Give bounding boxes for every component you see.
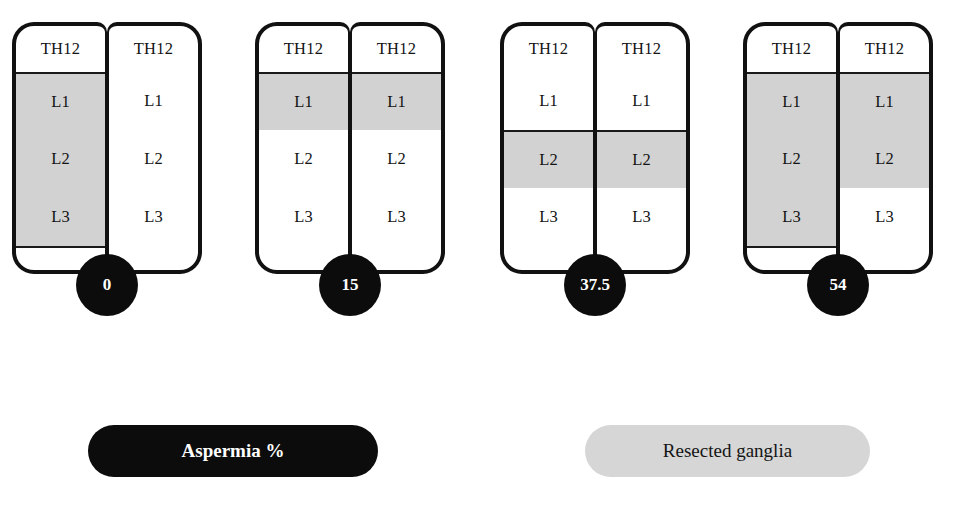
aspermia-value-bubble: 15 — [319, 254, 381, 316]
spine-unit: TH12L1L2L3TH12L1L2L337.5 — [500, 22, 690, 332]
level-stack: TH12L1L2L3 — [259, 26, 348, 270]
level-label: L2 — [294, 149, 313, 169]
spine-column-left: TH12L1L2L3 — [743, 22, 838, 274]
level-cell-l2: L2 — [597, 130, 686, 188]
level-label: L2 — [387, 149, 406, 169]
level-label: L1 — [51, 92, 70, 112]
level-label: L2 — [875, 149, 894, 169]
level-stack: TH12L1L2L3 — [747, 26, 836, 270]
level-stack: TH12L1L2L3 — [109, 26, 198, 270]
level-cell-l2: L2 — [840, 130, 929, 188]
level-stack: TH12L1L2L3 — [840, 26, 929, 270]
spine-column-left: TH12L1L2L3 — [255, 22, 350, 274]
level-cell-l1: L1 — [259, 72, 348, 130]
level-cell-th12: TH12 — [259, 26, 348, 72]
level-cell-l3: L3 — [747, 188, 836, 246]
level-label: L3 — [144, 207, 163, 227]
level-cell-l2: L2 — [504, 130, 593, 188]
spine-column-right: TH12L1L2L3 — [107, 22, 202, 274]
level-cell-l2: L2 — [259, 130, 348, 188]
level-stack: TH12L1L2L3 — [16, 26, 105, 270]
level-cell-l1: L1 — [840, 72, 929, 130]
spine-column-right: TH12L1L2L3 — [350, 22, 445, 274]
level-cell-l2: L2 — [352, 130, 441, 188]
aspermia-value-bubble: 0 — [76, 254, 138, 316]
level-label: TH12 — [377, 39, 416, 59]
level-cell-l2: L2 — [747, 130, 836, 188]
level-cell-l2: L2 — [109, 130, 198, 188]
spine-columns: TH12L1L2L3TH12L1L2L3 — [500, 22, 690, 274]
spine-unit: TH12L1L2L3TH12L1L2L30 — [12, 22, 202, 332]
spinal-ganglia-figure: Aspermia % Resected ganglia TH12L1L2L3TH… — [0, 0, 971, 515]
level-cell-l1: L1 — [352, 72, 441, 130]
aspermia-value-bubble: 54 — [807, 254, 869, 316]
level-cell-l2: L2 — [16, 130, 105, 188]
level-cell-l1: L1 — [504, 72, 593, 130]
level-cell-l1: L1 — [16, 72, 105, 130]
level-label: L2 — [539, 150, 558, 170]
level-cell-th12: TH12 — [352, 26, 441, 72]
level-cell-l1: L1 — [597, 72, 686, 130]
level-label: TH12 — [772, 39, 811, 59]
level-label: L1 — [875, 92, 894, 112]
legend-resected-ganglia: Resected ganglia — [585, 425, 870, 477]
spine-column-left: TH12L1L2L3 — [12, 22, 107, 274]
level-label: L1 — [144, 91, 163, 111]
level-stack: TH12L1L2L3 — [504, 26, 593, 270]
level-label: TH12 — [622, 39, 661, 59]
level-label: L3 — [51, 207, 70, 227]
level-label: L2 — [632, 150, 651, 170]
legend-resected-ganglia-label: Resected ganglia — [663, 440, 792, 462]
aspermia-value-bubble: 37.5 — [564, 254, 626, 316]
level-label: L1 — [539, 91, 558, 111]
level-cell-l3: L3 — [597, 188, 686, 246]
spine-column-left: TH12L1L2L3 — [500, 22, 595, 274]
level-label: L2 — [782, 149, 801, 169]
legend-aspermia: Aspermia % — [88, 425, 378, 477]
level-cell-th12: TH12 — [597, 26, 686, 72]
level-cell-th12: TH12 — [840, 26, 929, 72]
legend-aspermia-label: Aspermia % — [182, 440, 285, 462]
level-cell-th12: TH12 — [109, 26, 198, 72]
level-stack: TH12L1L2L3 — [597, 26, 686, 270]
level-label: TH12 — [865, 39, 904, 59]
level-label: TH12 — [134, 39, 173, 59]
level-label: L3 — [782, 207, 801, 227]
spine-unit: TH12L1L2L3TH12L1L2L315 — [255, 22, 445, 332]
level-label: L1 — [782, 92, 801, 112]
level-label: TH12 — [41, 39, 80, 59]
level-cell-l3: L3 — [504, 188, 593, 246]
spine-columns: TH12L1L2L3TH12L1L2L3 — [255, 22, 445, 274]
spine-column-right: TH12L1L2L3 — [838, 22, 933, 274]
level-label: L3 — [875, 207, 894, 227]
level-label: L3 — [294, 207, 313, 227]
level-cell-l3: L3 — [840, 188, 929, 246]
level-label: L1 — [294, 92, 313, 112]
level-cell-th12: TH12 — [16, 26, 105, 72]
spine-columns: TH12L1L2L3TH12L1L2L3 — [12, 22, 202, 274]
spine-column-right: TH12L1L2L3 — [595, 22, 690, 274]
level-label: L3 — [632, 207, 651, 227]
level-label: L2 — [51, 149, 70, 169]
level-label: L3 — [387, 207, 406, 227]
level-label: L3 — [539, 207, 558, 227]
spine-columns: TH12L1L2L3TH12L1L2L3 — [743, 22, 933, 274]
level-cell-l3: L3 — [109, 188, 198, 246]
level-label: L1 — [387, 92, 406, 112]
level-cell-th12: TH12 — [747, 26, 836, 72]
level-cell-l3: L3 — [16, 188, 105, 246]
level-cell-th12: TH12 — [504, 26, 593, 72]
level-cell-l3: L3 — [352, 188, 441, 246]
level-cell-l1: L1 — [747, 72, 836, 130]
level-cell-l1: L1 — [109, 72, 198, 130]
level-label: TH12 — [529, 39, 568, 59]
spine-unit: TH12L1L2L3TH12L1L2L354 — [743, 22, 933, 332]
level-label: L1 — [632, 91, 651, 111]
level-label: L2 — [144, 149, 163, 169]
level-stack: TH12L1L2L3 — [352, 26, 441, 270]
level-cell-l3: L3 — [259, 188, 348, 246]
level-label: TH12 — [284, 39, 323, 59]
